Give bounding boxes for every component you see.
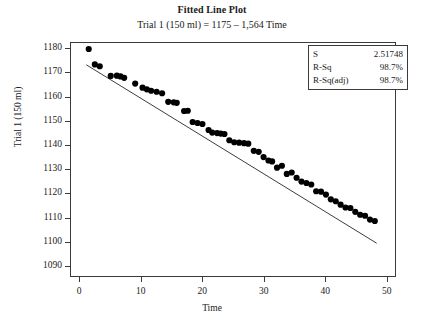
data-point: [362, 213, 368, 219]
y-axis-tick-label: 1110: [22, 213, 62, 223]
x-axis-tick-label: 0: [59, 287, 99, 297]
data-point: [323, 191, 329, 197]
x-axis-tick: [264, 277, 265, 282]
x-axis-tick: [325, 277, 326, 282]
data-point: [121, 75, 127, 81]
data-point: [165, 99, 171, 105]
data-point: [199, 121, 205, 127]
chart-title: Fitted Line Plot: [0, 4, 424, 15]
y-axis-tick-label: 1120: [22, 188, 62, 198]
data-point: [221, 131, 227, 137]
statistics-box: S2.51748R-Sq98.7%R-Sq(adj)98.7%: [308, 45, 408, 90]
x-axis-tick-label: 10: [121, 287, 161, 297]
x-axis-tick: [79, 277, 80, 282]
y-axis-tick-label: 1150: [22, 116, 62, 126]
fitted-line-plot-figure: Fitted Line Plot Trial 1 (150 ml) = 1175…: [0, 0, 424, 327]
data-point: [159, 90, 165, 96]
data-point: [108, 73, 114, 79]
statistics-row: S2.51748: [313, 48, 403, 61]
data-point: [97, 63, 103, 69]
x-axis-tick-label: 50: [367, 287, 407, 297]
statistics-value: 98.7%: [380, 61, 403, 74]
data-point: [245, 141, 251, 147]
y-axis-tick-label: 1170: [22, 67, 62, 77]
statistics-value: 2.51748: [374, 48, 403, 61]
statistics-key: R-Sq: [313, 61, 332, 74]
chart-subtitle: Trial 1 (150 ml) = 1175 – 1,564 Time: [0, 19, 424, 30]
fit-line: [86, 65, 376, 243]
data-point: [86, 46, 92, 52]
data-point: [293, 175, 299, 181]
data-point: [185, 108, 191, 114]
data-point: [308, 181, 314, 187]
x-axis-tick-label: 20: [182, 287, 222, 297]
data-point: [174, 100, 180, 106]
y-axis-tick-label: 1100: [22, 237, 62, 247]
statistics-key: R-Sq(adj): [313, 74, 349, 87]
x-axis-tick-label: 40: [305, 287, 345, 297]
data-point: [289, 169, 295, 175]
x-axis-tick: [387, 277, 388, 282]
data-point: [269, 158, 275, 164]
y-axis-tick-label: 1090: [22, 261, 62, 271]
data-point: [154, 89, 160, 95]
data-point: [148, 88, 154, 94]
statistics-key: S: [313, 48, 318, 61]
statistics-row: R-Sq(adj)98.7%: [313, 74, 403, 87]
y-axis-tick-label: 1140: [22, 140, 62, 150]
x-axis-tick-label: 30: [244, 287, 284, 297]
x-axis-tick: [141, 277, 142, 282]
data-point: [132, 81, 138, 87]
data-point: [256, 149, 262, 155]
y-axis-tick-label: 1160: [22, 92, 62, 102]
data-point: [279, 163, 285, 169]
y-axis-tick-label: 1130: [22, 164, 62, 174]
x-axis-tick: [202, 277, 203, 282]
data-point: [372, 218, 378, 224]
statistics-value: 98.7%: [380, 74, 403, 87]
regression-line: [86, 65, 376, 243]
y-axis-tick-label: 1180: [22, 43, 62, 53]
statistics-row: R-Sq98.7%: [313, 61, 403, 74]
data-point: [347, 205, 353, 211]
x-axis-title: Time: [0, 303, 424, 313]
